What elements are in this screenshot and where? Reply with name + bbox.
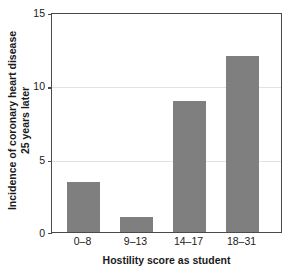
y-axis-tick-labels: 15 10 5 0 [28,0,45,273]
y-tick-label-10: 10 [28,80,45,92]
tick-mark-15 [48,14,52,15]
plot-inner [52,14,281,232]
y-tick-label-0: 0 [28,227,45,239]
y-tick-label-15: 15 [28,7,45,19]
x-tick-label-0-8: 0–8 [58,235,108,247]
plot-area [51,13,282,233]
bar-9-13 [120,217,153,232]
x-axis-title: Hostility score as student [51,254,282,266]
tick-mark-5 [48,161,52,162]
x-tick-label-14-17: 14–17 [164,235,214,247]
bar-chart-figure: Incidence of coronary heart disease 25 y… [0,0,288,273]
tick-mark-0 [48,233,52,234]
x-axis-tick-labels: 0–8 9–13 14–17 18–31 [51,235,282,251]
x-tick-label-9-13: 9–13 [111,235,161,247]
y-tick-label-5: 5 [28,154,45,166]
x-tick-label-18-31: 18–31 [217,235,267,247]
tick-mark-10 [48,87,52,88]
y-axis-title-line1: Incidence of coronary heart disease [7,30,19,209]
bar-18-31 [226,56,259,232]
bar-14-17 [173,101,206,232]
bar-0-8 [67,182,100,232]
